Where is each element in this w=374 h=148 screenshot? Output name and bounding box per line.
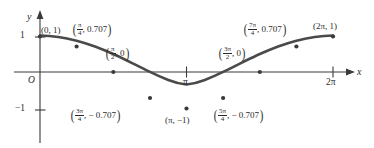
fraction-3pi-2: 3π2	[223, 46, 232, 61]
value-text: , 0	[116, 49, 125, 58]
data-point-3pi-over-4	[148, 96, 152, 100]
point-label-0-1: (0, 1)	[41, 26, 61, 35]
paren-open: (	[219, 46, 223, 61]
paren-close: )	[125, 46, 129, 61]
data-point-7pi-over-4	[294, 44, 298, 48]
data-point-3pi-over-2	[258, 70, 262, 74]
paren-open: (	[244, 22, 248, 37]
paren-close: )	[108, 22, 112, 37]
origin-label: O	[28, 76, 35, 86]
y-axis-arrow	[37, 10, 44, 19]
value-text: , 0.707	[257, 25, 282, 34]
y-axis-label: y	[27, 12, 31, 22]
cosine-graph-figure: y x O 1 −1 π 2π (0, 1) (π4, 0.707) (π2, …	[0, 0, 374, 148]
paren-open: (	[73, 22, 77, 37]
fraction-pi-4: π4	[77, 22, 83, 37]
paren-open: (	[106, 46, 110, 61]
paren-open: (	[71, 108, 75, 123]
paren-open: (	[214, 108, 218, 123]
fraction-pi-2: π2	[110, 46, 116, 61]
point-label-7pi-over-4: (7π4, 0.707)	[243, 22, 287, 37]
value-text: , 0	[232, 49, 241, 58]
point-label-pi-over-2: (π2, 0)	[105, 46, 130, 61]
fraction-3pi-4: 3π4	[75, 108, 84, 123]
data-point-pi-over-2	[111, 70, 115, 74]
paren-close: )	[117, 108, 121, 123]
point-label-pi-neg1: (π, −1)	[165, 116, 190, 125]
data-point-pi	[184, 106, 188, 110]
point-label-2pi-1: (2π, 1)	[313, 22, 337, 31]
x-axis-arrow	[346, 69, 355, 76]
point-label-3pi-over-4: (3π4, − 0.707)	[70, 108, 121, 123]
data-point-5pi-over-4	[221, 96, 225, 100]
y-tick-label-neg1: −1	[15, 104, 25, 114]
x-axis-label: x	[357, 67, 361, 77]
value-text: , 0.707	[83, 25, 108, 34]
paren-close: )	[260, 108, 264, 123]
x-tick-label-pi: π	[183, 78, 188, 88]
fraction-7pi-4: 7π4	[248, 22, 257, 37]
x-tick-label-2pi: 2π	[326, 78, 336, 88]
paren-close: )	[282, 22, 286, 37]
data-point-pi-over-4	[75, 44, 79, 48]
value-text: , − 0.707	[84, 111, 116, 120]
value-text: , − 0.707	[227, 111, 259, 120]
paren-close: )	[242, 46, 246, 61]
point-label-pi-over-4: (π4, 0.707)	[72, 22, 112, 37]
point-label-5pi-over-4: (5π4, − 0.707)	[213, 108, 264, 123]
y-tick-label-1: 1	[20, 31, 25, 41]
data-point-0	[38, 34, 42, 38]
fraction-5pi-4: 5π4	[218, 108, 227, 123]
point-label-3pi-over-2: (3π2, 0)	[218, 46, 246, 61]
data-point-2pi	[331, 34, 335, 38]
